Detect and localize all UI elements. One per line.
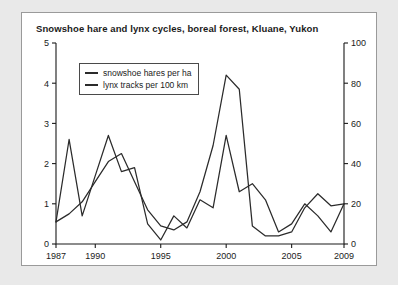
series-group [56,75,344,240]
right-axis-tick-label: 0 [351,239,356,249]
left-axis-tick-label: 3 [44,119,49,129]
left-axis-tick-label: 0 [44,239,49,249]
x-axis-tick-label: 2009 [334,251,354,261]
series-line-lynx [56,135,344,240]
right-axis-tick-label: 20 [351,199,361,209]
legend-swatch-lynx-icon [85,84,98,86]
series-line-hares [56,75,344,236]
x-axis-tick-label: 2000 [216,251,236,261]
left-axis-tick-label: 5 [44,38,49,48]
x-axis-tick-label: 1987 [46,251,66,261]
legend-label-lynx: lynx tracks per 100 km [103,80,188,90]
x-axis-tick-label: 1990 [85,251,105,261]
x-axis-tick-label: 1995 [151,251,171,261]
right-axis-tick-label: 100 [351,38,366,48]
left-axis-tick-label: 2 [44,159,49,169]
figure-card: Snowshoe hare and lynx cycles, boreal fo… [21,12,377,266]
right-axis-tick-label: 60 [351,119,361,129]
right-axis-tick-label: 40 [351,159,361,169]
chart-legend: snowshoe hares per ha lynx tracks per 10… [79,63,199,95]
left-axis-tick-label: 4 [44,79,49,89]
right-axis-tick-label: 80 [351,79,361,89]
legend-item-hares: snowshoe hares per ha [85,67,191,79]
x-axis-tick-label: 2005 [282,251,302,261]
legend-swatch-hares-icon [85,72,98,74]
chart-plot-area: 0123450204060801001987199019952000200520… [22,13,378,267]
legend-item-lynx: lynx tracks per 100 km [85,79,191,91]
legend-label-hares: snowshoe hares per ha [103,68,191,78]
left-axis-tick-label: 1 [44,199,49,209]
